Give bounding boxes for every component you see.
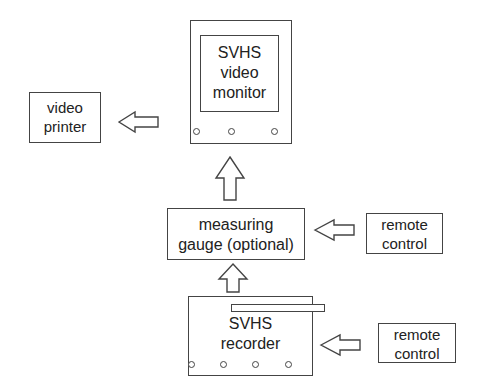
arrow-left-icon [321, 335, 360, 355]
arrow-up-icon [219, 264, 247, 292]
arrow-up-icon [216, 157, 244, 200]
arrow-left-icon [315, 220, 354, 240]
arrows-layer [0, 0, 477, 391]
arrow-left-icon [119, 112, 158, 132]
